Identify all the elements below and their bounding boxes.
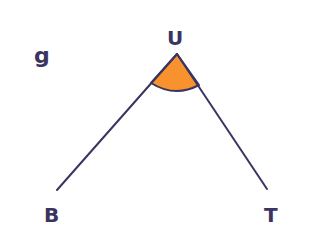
ray-UT xyxy=(177,54,267,189)
angle-diagram: g U B T xyxy=(0,0,311,245)
figure-label: g xyxy=(34,43,50,68)
vertex-label-B: B xyxy=(44,203,59,227)
angle-marker-sector xyxy=(151,54,199,91)
vertex-label-U: U xyxy=(167,26,183,50)
vertex-label-T: T xyxy=(264,203,278,227)
ray-UB xyxy=(57,54,177,190)
